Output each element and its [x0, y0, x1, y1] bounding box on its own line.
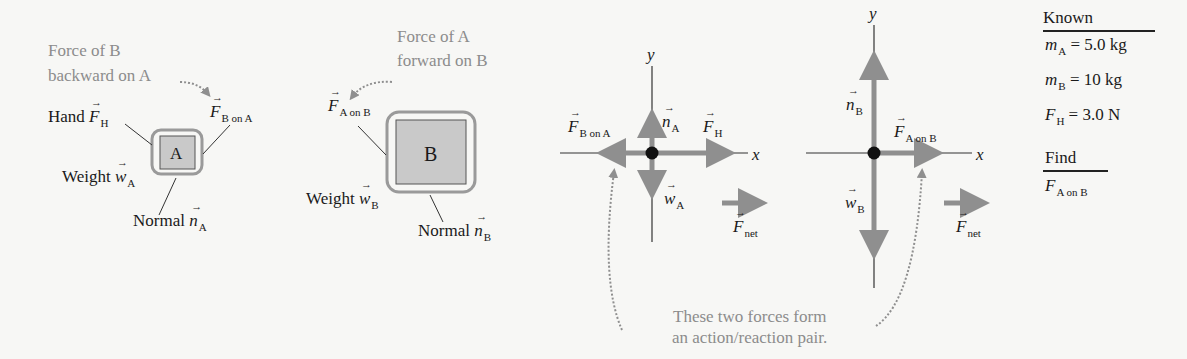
block-b-label: B	[424, 144, 437, 164]
fbd-a-w-symbol: w	[664, 190, 675, 207]
weight-a-sub: A	[127, 177, 135, 189]
fbd-a-y-axis: y	[647, 46, 655, 63]
known-val: = 5.0 kg	[1070, 35, 1126, 54]
leader-hand	[125, 124, 152, 145]
fbona-sub: B on A	[221, 112, 252, 124]
weight-a-text: Weight	[62, 167, 111, 186]
fbd-a-fh-symbol: F	[703, 118, 713, 135]
annotation-a-on-b-line1: Force of A	[397, 28, 470, 45]
fbd-a-fbona-sub: B on A	[579, 127, 610, 139]
annotation-a-on-b-line2: forward on B	[397, 52, 488, 69]
known-heading: Known	[1043, 8, 1093, 28]
fbd-a-n-sub: A	[672, 122, 680, 134]
fbd-a-fnet-sub: net	[744, 227, 757, 239]
fbd-b-x-axis: x	[976, 146, 984, 163]
annotation-b-on-a-line2: backward on A	[48, 67, 151, 84]
fbd-a-fh-label: FH	[703, 118, 722, 135]
weight-b-sub: B	[371, 199, 378, 211]
weight-b-text: Weight	[306, 189, 355, 208]
known-sub: B	[1058, 80, 1065, 92]
weight-b-symbol: w	[359, 190, 370, 207]
fbd-b-fnet-sub: net	[967, 227, 980, 239]
find-value: FA on B	[1045, 176, 1088, 196]
fbd-b-fnet-label: Fnet	[956, 218, 981, 235]
fbona-symbol: F	[210, 103, 220, 120]
annotation-b-on-a-line1: Force of B	[48, 42, 121, 59]
block-a-label: A	[170, 145, 182, 162]
fbd-a-n-symbol: n	[662, 113, 671, 130]
find-sym: F	[1045, 176, 1055, 195]
fbd-b-faonb-symbol: F	[894, 123, 904, 140]
weight-b-label: Weight wB	[306, 190, 379, 207]
normal-b-text: Normal	[418, 221, 470, 240]
fbd-a-fbona-symbol: F	[568, 118, 578, 135]
normal-a-text: Normal	[133, 211, 185, 230]
fbd-b-fnet-symbol: F	[956, 218, 966, 235]
faonb-sub: A on B	[339, 106, 370, 118]
fbd-b-n-symbol: n	[846, 96, 855, 113]
fbd-b-n-label: nB	[846, 96, 863, 113]
known-row: mB = 10 kg	[1045, 70, 1122, 90]
leader-faonb	[358, 126, 386, 155]
known-sub: H	[1056, 115, 1064, 127]
fbd-b-graphics	[806, 25, 980, 288]
fbd-a-w-label: wA	[664, 190, 684, 207]
normal-a-label: Normal nA	[133, 212, 207, 229]
hand-text: Hand	[48, 107, 85, 126]
pair-note-line2: an action/reaction pair.	[672, 329, 827, 346]
weight-a-symbol: w	[115, 168, 126, 185]
fbd-b-y-axis: y	[869, 5, 877, 22]
fbd-a-w-sub: A	[676, 199, 684, 211]
fbona-label: FB on A	[210, 103, 253, 120]
fbd-a-fnet-label: Fnet	[733, 218, 758, 235]
hand-vector-symbol: F	[89, 108, 99, 125]
pair-note-line1: These two forces form	[673, 308, 826, 325]
pair-arrow-left	[609, 172, 622, 330]
fbd-b-w-sub: B	[857, 203, 864, 215]
find-rule	[1043, 170, 1108, 172]
weight-a-label: Weight wA	[62, 168, 135, 185]
faonb-label: FA on B	[328, 97, 371, 114]
known-sub: A	[1058, 45, 1066, 57]
hand-force-label: Hand FH	[48, 108, 108, 125]
leader-normal-b	[430, 195, 443, 222]
fbd-b-faonb-sub: A on B	[905, 132, 936, 144]
find-sub: A on B	[1056, 186, 1087, 198]
normal-a-symbol: n	[189, 212, 198, 229]
normal-b-label: Normal nB	[418, 222, 491, 239]
known-sym: m	[1045, 35, 1057, 54]
known-sym: F	[1045, 105, 1055, 124]
fbd-b-w-symbol: w	[845, 194, 856, 211]
fbd-b-w-label: wB	[845, 194, 865, 211]
diagram-graphics	[0, 0, 1187, 359]
fbd-a-n-label: nA	[662, 113, 679, 130]
fbd-a-graphics	[560, 66, 758, 242]
pair-arrow-right	[876, 172, 922, 326]
known-val: = 10 kg	[1070, 70, 1122, 89]
fbd-a-fbona-label: FB on A	[568, 118, 611, 135]
known-row: FH = 3.0 N	[1045, 105, 1120, 125]
fbd-b-n-sub: B	[856, 105, 863, 117]
fbd-a-x-axis: x	[752, 146, 760, 163]
fbd-b-faonb-label: FA on B	[894, 123, 937, 140]
find-heading: Find	[1045, 148, 1076, 168]
leader-fbona	[203, 125, 230, 154]
known-sym: m	[1045, 70, 1057, 89]
known-val: = 3.0 N	[1069, 105, 1121, 124]
hand-sub: H	[100, 117, 108, 129]
fbd-a-fh-sub: H	[714, 127, 722, 139]
fbd-a-fnet-symbol: F	[733, 218, 743, 235]
known-rule	[1043, 30, 1155, 32]
dotted-arrow-b	[352, 82, 392, 97]
dotted-arrow-a	[180, 82, 208, 94]
normal-b-sub: B	[484, 231, 491, 243]
normal-a-sub: A	[199, 221, 207, 233]
leader-normal-a	[159, 178, 176, 215]
faonb-symbol: F	[328, 97, 338, 114]
normal-b-symbol: n	[474, 222, 483, 239]
known-row: mA = 5.0 kg	[1045, 35, 1127, 55]
